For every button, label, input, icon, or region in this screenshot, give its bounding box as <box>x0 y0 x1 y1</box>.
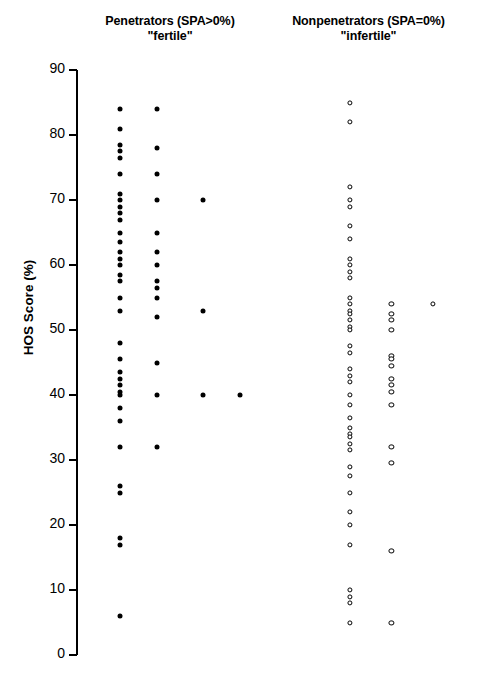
data-point <box>389 548 394 553</box>
data-point <box>117 357 122 362</box>
data-point <box>154 315 159 320</box>
data-point <box>117 230 122 235</box>
data-point <box>389 357 394 362</box>
data-point <box>347 366 352 371</box>
data-point <box>347 344 352 349</box>
data-point <box>347 236 352 241</box>
data-point <box>347 350 352 355</box>
data-point <box>117 155 122 160</box>
y-tick-50: 50 <box>69 329 77 331</box>
data-point <box>389 444 394 449</box>
data-point <box>117 406 122 411</box>
data-point <box>117 272 122 277</box>
data-point <box>347 269 352 274</box>
y-tick-label-90: 90 <box>49 60 65 76</box>
data-point <box>347 311 352 316</box>
data-point <box>117 341 122 346</box>
data-point <box>117 370 122 375</box>
y-tick-40: 40 <box>69 394 77 396</box>
data-point <box>389 301 394 306</box>
data-point <box>117 240 122 245</box>
data-point <box>389 311 394 316</box>
data-point <box>389 376 394 381</box>
data-point <box>430 301 435 306</box>
data-point <box>347 392 352 397</box>
data-point <box>117 211 122 216</box>
data-point <box>117 484 122 489</box>
data-point <box>347 100 352 105</box>
data-point <box>117 263 122 268</box>
data-point <box>117 445 122 450</box>
group-heading-penetrators-line2: "fertile" <box>80 29 260 44</box>
y-tick-label-30: 30 <box>49 450 65 466</box>
y-tick-label-10: 10 <box>49 580 65 596</box>
data-point <box>347 542 352 547</box>
data-point <box>347 490 352 495</box>
data-point <box>117 172 122 177</box>
chart-page: Penetrators (SPA>0%) "fertile" Nonpenetr… <box>0 0 499 677</box>
data-point <box>154 445 159 450</box>
data-point <box>347 379 352 384</box>
data-point <box>117 142 122 147</box>
data-point <box>347 620 352 625</box>
data-point <box>154 250 159 255</box>
data-point <box>347 119 352 124</box>
data-point <box>347 594 352 599</box>
data-point <box>347 587 352 592</box>
data-point <box>347 474 352 479</box>
data-point <box>347 464 352 469</box>
data-point <box>117 536 122 541</box>
data-point <box>154 360 159 365</box>
data-point <box>347 448 352 453</box>
data-point <box>117 542 122 547</box>
data-point <box>389 363 394 368</box>
y-tick-90: 90 <box>69 69 77 71</box>
data-point <box>389 318 394 323</box>
data-point <box>200 198 205 203</box>
data-point <box>117 191 122 196</box>
data-point <box>117 198 122 203</box>
data-point <box>117 204 122 209</box>
data-point <box>347 415 352 420</box>
data-point <box>154 295 159 300</box>
y-tick-label-0: 0 <box>57 645 65 661</box>
data-point <box>389 327 394 332</box>
data-point <box>389 389 394 394</box>
data-point <box>200 393 205 398</box>
group-heading-penetrators-line1: Penetrators (SPA>0%) <box>105 14 234 28</box>
y-tick-label-80: 80 <box>49 125 65 141</box>
y-tick-80: 80 <box>69 134 77 136</box>
group-heading-nonpenetrators-line2: "infertile" <box>256 29 481 44</box>
data-point <box>117 308 122 313</box>
data-point <box>347 256 352 261</box>
data-point <box>154 263 159 268</box>
data-point <box>389 383 394 388</box>
data-point <box>117 393 122 398</box>
data-point <box>117 295 122 300</box>
data-point <box>347 373 352 378</box>
data-point <box>347 509 352 514</box>
y-tick-70: 70 <box>69 199 77 201</box>
data-point <box>117 149 122 154</box>
data-point <box>117 614 122 619</box>
data-point <box>154 198 159 203</box>
data-point <box>347 402 352 407</box>
data-point <box>347 184 352 189</box>
y-tick-30: 30 <box>69 459 77 461</box>
data-point <box>347 275 352 280</box>
data-point <box>389 402 394 407</box>
data-point <box>117 419 122 424</box>
y-tick-0: 0 <box>69 654 77 656</box>
group-heading-nonpenetrators-line1: Nonpenetrators (SPA=0%) <box>292 14 445 28</box>
data-point <box>389 620 394 625</box>
data-point <box>154 279 159 284</box>
group-heading-nonpenetrators: Nonpenetrators (SPA=0%) "infertile" <box>256 14 481 44</box>
group-heading-penetrators: Penetrators (SPA>0%) "fertile" <box>80 14 260 44</box>
y-tick-label-60: 60 <box>49 255 65 271</box>
data-point <box>154 393 159 398</box>
data-point <box>347 301 352 306</box>
plot-area: 0102030405060708090 <box>76 70 491 655</box>
data-point <box>347 327 352 332</box>
data-point <box>347 204 352 209</box>
data-point <box>117 217 122 222</box>
